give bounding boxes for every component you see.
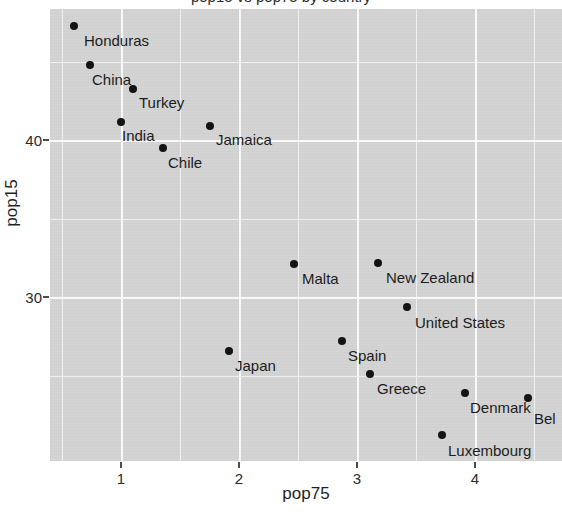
data-point-label: Turkey xyxy=(139,95,184,110)
data-point[interactable] xyxy=(461,389,469,397)
x-tick-mark xyxy=(474,462,476,468)
y-axis-title: pop15 xyxy=(2,153,22,253)
gridline-horizontal-minor xyxy=(50,219,562,220)
gridline-vertical-major xyxy=(475,9,477,461)
data-point[interactable] xyxy=(206,122,214,130)
data-point[interactable] xyxy=(86,61,94,69)
data-point-label: Honduras xyxy=(84,33,149,48)
plot-panel: HondurasChinaTurkeyIndiaJamaicaChileMalt… xyxy=(50,9,562,461)
data-point[interactable] xyxy=(159,144,167,152)
data-point[interactable] xyxy=(70,22,78,30)
data-point-label: Japan xyxy=(235,358,276,373)
data-point[interactable] xyxy=(338,337,346,345)
x-axis-title: pop75 xyxy=(50,484,562,504)
y-tick-label: 40 xyxy=(25,133,42,148)
x-tick-mark xyxy=(238,462,240,468)
gridline-horizontal-major xyxy=(50,297,562,299)
data-point[interactable] xyxy=(225,347,233,355)
data-point[interactable] xyxy=(438,431,446,439)
x-tick-mark xyxy=(356,462,358,468)
data-point-label: China xyxy=(92,72,131,87)
data-point-label: Denmark xyxy=(470,400,531,415)
data-point-label: Bel xyxy=(534,411,556,426)
gridline-horizontal-minor xyxy=(50,376,562,377)
data-point[interactable] xyxy=(374,259,382,267)
data-point-label: Spain xyxy=(348,348,386,363)
data-point-label: New Zealand xyxy=(386,270,474,285)
data-point-label: Malta xyxy=(302,271,339,286)
data-point[interactable] xyxy=(403,303,411,311)
data-point[interactable] xyxy=(290,260,298,268)
data-point-label: Luxembourg xyxy=(448,443,531,458)
gridline-vertical-minor xyxy=(534,9,535,461)
data-point[interactable] xyxy=(117,118,125,126)
plot-title: pop15 vs pop75 by country xyxy=(0,0,562,5)
gridline-horizontal-minor xyxy=(50,62,562,63)
data-point[interactable] xyxy=(524,394,532,402)
gridline-vertical-major xyxy=(357,9,359,461)
data-point-label: India xyxy=(122,128,155,143)
gridline-vertical-minor xyxy=(62,9,63,461)
gridline-vertical-major xyxy=(239,9,241,461)
gridline-vertical-minor xyxy=(298,9,299,461)
x-tick-mark xyxy=(120,462,122,468)
data-point-label: Jamaica xyxy=(216,132,272,147)
data-point-label: United States xyxy=(415,315,505,330)
y-tick-mark xyxy=(43,139,49,141)
data-point[interactable] xyxy=(129,85,137,93)
data-point-label: Greece xyxy=(377,381,426,396)
data-point[interactable] xyxy=(366,370,374,378)
data-point-label: Chile xyxy=(168,155,202,170)
gridline-vertical-minor xyxy=(180,9,181,461)
scatter-plot-figure: pop15 vs pop75 by country HondurasChinaT… xyxy=(0,0,562,512)
y-tick-mark xyxy=(43,296,49,298)
y-tick-label: 30 xyxy=(25,290,42,305)
